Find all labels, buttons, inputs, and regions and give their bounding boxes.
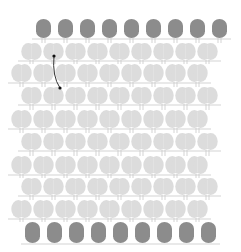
light-node [33, 156, 53, 174]
light-node [131, 87, 151, 104]
light-node [153, 133, 173, 150]
light-node [197, 43, 217, 60]
light-node [143, 110, 163, 128]
light-node [55, 64, 75, 82]
dark-node [179, 222, 194, 243]
light-node [65, 178, 85, 195]
light-node [87, 178, 107, 195]
dark-node [190, 19, 205, 38]
light-node [109, 87, 129, 104]
dark-node [135, 222, 150, 243]
light-node [175, 178, 195, 195]
light-node [121, 110, 141, 128]
light-node [77, 64, 97, 82]
light-node [121, 64, 141, 82]
dark-node [157, 222, 172, 243]
light-node [143, 156, 163, 174]
dark-node [146, 19, 161, 38]
light-node [187, 156, 207, 174]
light-node [197, 87, 217, 104]
light-node [21, 43, 41, 60]
light-node [175, 133, 195, 150]
light-node [21, 178, 41, 195]
light-node [121, 200, 141, 218]
dark-node [113, 222, 128, 243]
lattice-diagram [0, 0, 241, 252]
light-node [11, 200, 31, 218]
light-node [99, 200, 119, 218]
light-node [87, 87, 107, 104]
light-node [165, 156, 185, 174]
light-node [87, 43, 107, 60]
light-node [131, 133, 151, 150]
dark-node [36, 19, 51, 38]
dark-node [124, 19, 139, 38]
light-node [131, 178, 151, 195]
arrow-end-dot [58, 86, 61, 89]
light-node [55, 110, 75, 128]
light-node [109, 43, 129, 60]
light-node [65, 87, 85, 104]
light-node [121, 156, 141, 174]
light-node [197, 133, 217, 150]
light-node [33, 200, 53, 218]
light-node [99, 156, 119, 174]
light-node [77, 110, 97, 128]
dark-node [25, 222, 40, 243]
light-node [77, 200, 97, 218]
light-node [109, 133, 129, 150]
light-node [143, 200, 163, 218]
light-node [65, 43, 85, 60]
dark-node [201, 222, 216, 243]
light-node [153, 178, 173, 195]
light-node [11, 156, 31, 174]
light-node [11, 64, 31, 82]
light-node [153, 87, 173, 104]
light-node [187, 200, 207, 218]
light-node [77, 156, 97, 174]
light-node [21, 133, 41, 150]
dark-node [58, 19, 73, 38]
light-node [33, 64, 53, 82]
lattice-nodes [11, 19, 227, 243]
light-node [55, 200, 75, 218]
light-node [43, 133, 63, 150]
dark-node [80, 19, 95, 38]
light-node [99, 64, 119, 82]
light-node [197, 178, 217, 195]
light-node [33, 110, 53, 128]
dark-node [47, 222, 62, 243]
light-node [55, 156, 75, 174]
light-node [21, 87, 41, 104]
dark-node [69, 222, 84, 243]
light-node [165, 64, 185, 82]
light-node [131, 43, 151, 60]
light-node [43, 87, 63, 104]
dark-node [102, 19, 117, 38]
light-node [65, 133, 85, 150]
light-node [11, 110, 31, 128]
light-node [143, 64, 163, 82]
light-node [165, 110, 185, 128]
arrow-start-dot [52, 54, 55, 57]
light-node [175, 43, 195, 60]
dark-node [212, 19, 227, 38]
light-node [187, 110, 207, 128]
light-node [43, 178, 63, 195]
dark-node [91, 222, 106, 243]
light-node [87, 133, 107, 150]
light-node [175, 87, 195, 104]
light-node [99, 110, 119, 128]
light-node [165, 200, 185, 218]
light-node [153, 43, 173, 60]
dark-node [168, 19, 183, 38]
light-node [109, 178, 129, 195]
light-node [187, 64, 207, 82]
